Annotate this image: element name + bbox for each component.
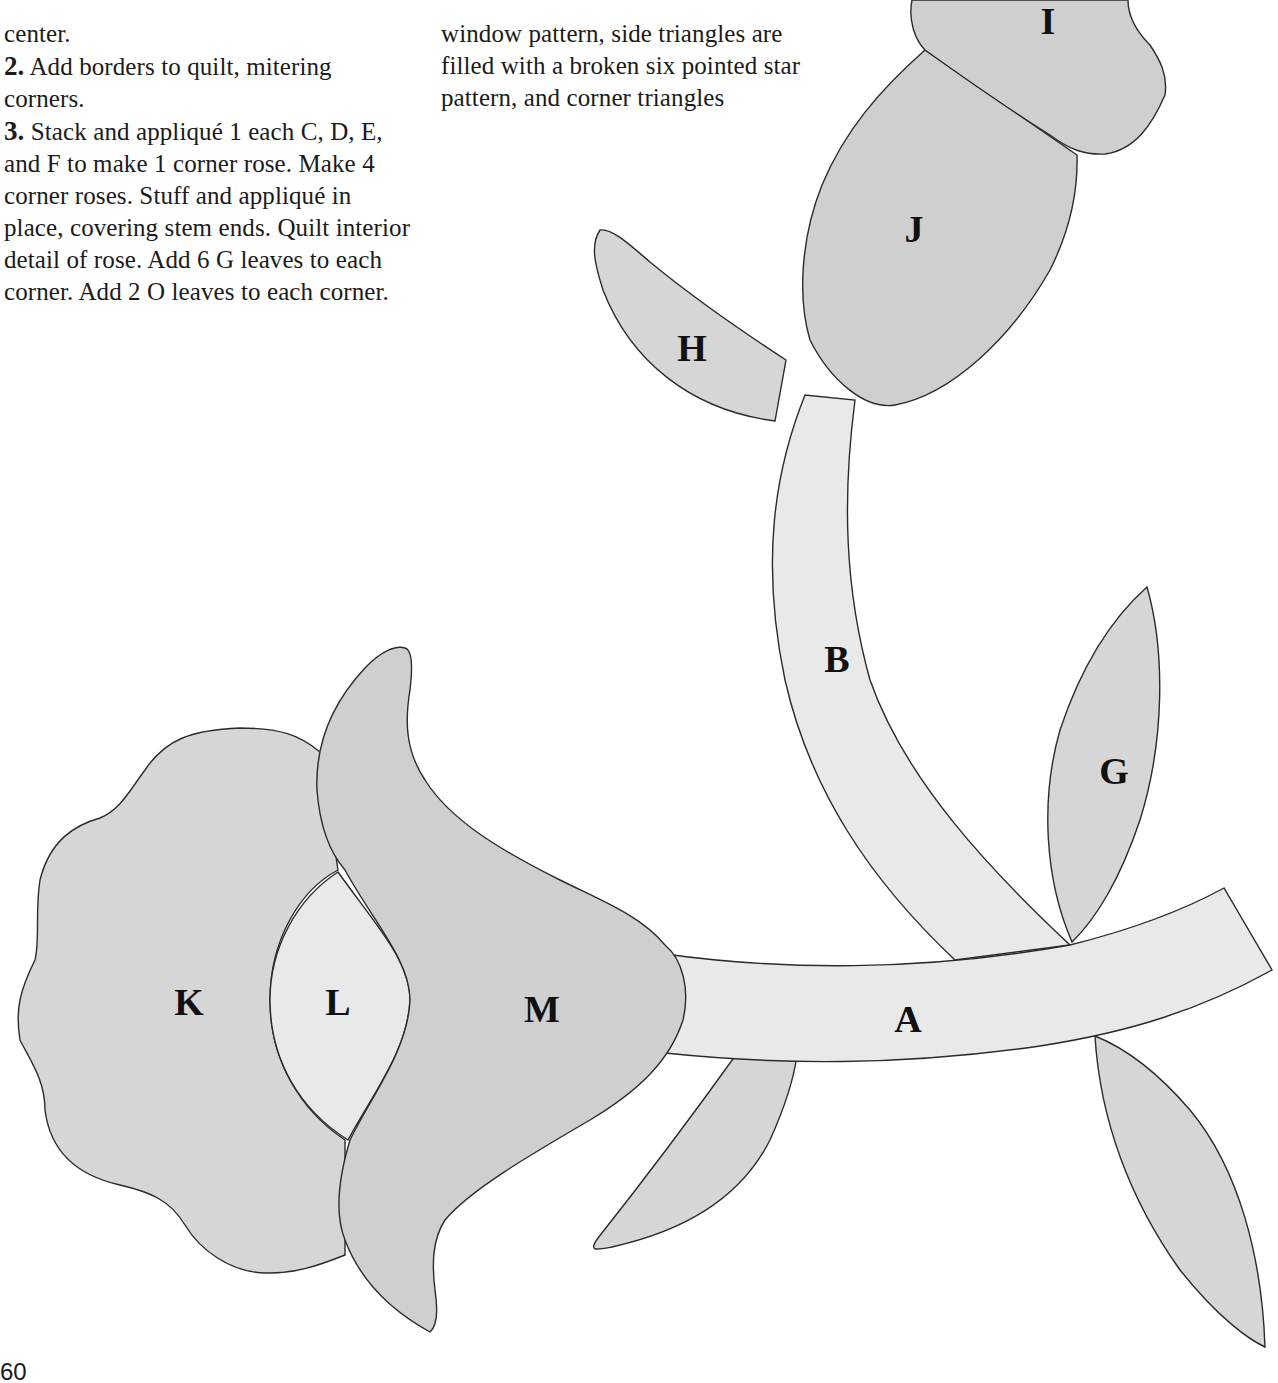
label-k: K [174,981,204,1023]
leaf-h [594,230,786,421]
label-l: L [325,981,350,1023]
page-number: 60 [0,1358,27,1383]
label-i: I [1041,0,1056,42]
stem-b [772,395,1070,960]
leaf-lower-right [1095,1036,1265,1347]
label-g: G [1099,750,1129,792]
label-j: J [905,208,924,250]
label-h: H [677,327,707,369]
label-a: A [894,998,922,1040]
applique-pattern: A B G H I J K L M [0,0,1278,1383]
label-b: B [824,638,849,680]
label-m: M [524,988,560,1030]
